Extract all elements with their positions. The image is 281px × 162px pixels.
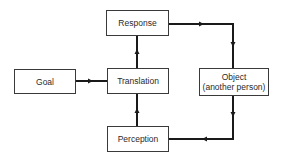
arrow-down-icon — [231, 42, 236, 47]
node-perception: Perception — [107, 126, 169, 152]
node-object: Object (another person) — [199, 68, 269, 96]
node-label: Perception — [118, 134, 159, 144]
arrow-right-icon — [88, 79, 93, 84]
node-label: Translation — [117, 76, 159, 86]
arrow-up-icon — [135, 108, 140, 113]
node-translation: Translation — [107, 68, 169, 94]
arrow-right-icon — [199, 22, 204, 27]
arrow-up-icon — [135, 49, 140, 54]
node-label: Goal — [36, 77, 54, 87]
node-label-line1: Object — [222, 72, 247, 82]
node-label: Response — [118, 18, 156, 28]
arrow-left-icon — [202, 137, 207, 142]
node-response: Response — [106, 10, 169, 36]
arrow-down-icon — [231, 112, 236, 117]
node-label-line2: (another person) — [203, 82, 266, 92]
node-goal: Goal — [14, 69, 76, 94]
